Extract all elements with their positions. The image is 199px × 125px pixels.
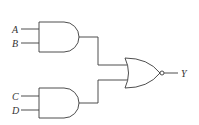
output-label-y: Y — [181, 68, 188, 79]
nor-inversion-bubble — [160, 71, 164, 75]
input-label-b: B — [12, 38, 18, 49]
wire-and1-to-nor — [79, 37, 128, 65]
logic-circuit-diagram: A B C D Y — [0, 0, 199, 125]
and-gate-2 — [39, 88, 79, 118]
nor-gate — [125, 58, 160, 88]
and-gate-1 — [39, 22, 79, 52]
input-label-a: A — [11, 24, 19, 35]
wire-and2-to-nor — [79, 80, 128, 103]
input-label-d: D — [11, 105, 20, 116]
input-label-c: C — [12, 91, 19, 102]
